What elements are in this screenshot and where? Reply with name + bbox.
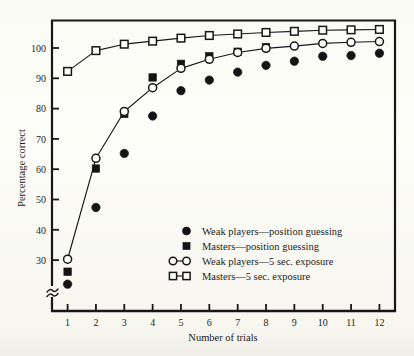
series-markers-0: [63, 49, 383, 288]
data-point-s3-x2: [92, 47, 100, 55]
data-point-s3-x10: [319, 26, 327, 34]
x-axis-title: Number of trials: [188, 332, 257, 343]
chart-legend: Weak players—position guessingMasters—po…: [169, 226, 343, 282]
legend-label-1: Masters—position guessing: [202, 241, 320, 252]
y-tick-label-30: 30: [36, 255, 46, 266]
data-point-s2-x2: [92, 154, 100, 162]
x-tick-label-2: 2: [93, 317, 98, 328]
legend-marker-3: [183, 272, 190, 279]
series-line-3: [68, 29, 380, 71]
data-point-s2-x4: [149, 84, 157, 92]
legend-label-3: Masters—5 sec. exposure: [202, 271, 311, 282]
data-point-s1-x1: [64, 268, 71, 275]
x-tick-label-11: 11: [346, 317, 356, 328]
y-tick-label-60: 60: [36, 164, 46, 175]
data-point-s3-x4: [149, 37, 157, 45]
data-point-s0-x10: [319, 52, 327, 60]
x-tick-label-10: 10: [318, 317, 328, 328]
data-point-s3-x9: [291, 28, 299, 36]
x-tick-label-5: 5: [178, 317, 183, 328]
data-point-s2-x8: [262, 44, 270, 52]
y-tick-label-100: 100: [31, 43, 46, 54]
data-point-s0-x2: [92, 203, 100, 211]
y-tick-label-80: 80: [36, 103, 46, 114]
x-tick-label-12: 12: [374, 317, 384, 328]
x-tick-label-1: 1: [65, 317, 70, 328]
y-axis-ticks: 100 90 80 70 60 50 40 30: [31, 43, 59, 266]
legend-marker-left-2: [169, 257, 177, 265]
chart-canvas: 100 90 80 70 60 50 40 30 123456789101112: [0, 0, 414, 356]
data-point-s3-x6: [206, 32, 214, 40]
y-tick-label-40: 40: [36, 225, 46, 236]
data-point-s2-x12: [375, 38, 383, 46]
data-point-s3-x8: [262, 29, 270, 37]
legend-marker-1: [183, 242, 190, 249]
data-point-s2-x3: [120, 107, 128, 115]
y-tick-label-90: 90: [36, 73, 46, 84]
data-point-s2-x5: [177, 64, 185, 72]
figure-container: 100 90 80 70 60 50 40 30 123456789101112: [0, 0, 414, 356]
data-point-s0-x9: [290, 57, 298, 65]
data-point-s0-x12: [375, 49, 383, 57]
data-point-s0-x6: [205, 76, 213, 84]
legend-marker-2: [183, 257, 191, 265]
data-point-s0-x5: [177, 86, 185, 94]
y-tick-label-70: 70: [36, 134, 46, 145]
legend-label-0: Weak players—position guessing: [202, 226, 343, 237]
data-point-s2-x9: [290, 42, 298, 50]
data-point-s3-x12: [376, 26, 384, 34]
data-point-s3-x1: [64, 68, 72, 76]
data-point-s0-x4: [148, 112, 156, 120]
data-point-s0-x11: [347, 51, 355, 59]
data-point-s0-x7: [233, 68, 241, 76]
data-point-s0-x3: [120, 149, 128, 157]
data-point-s3-x3: [120, 40, 128, 48]
plot-frame: [51, 20, 396, 312]
x-tick-label-8: 8: [264, 317, 269, 328]
legend-label-2: Weak players—5 sec. exposure: [202, 256, 334, 267]
legend-marker-left-3: [169, 272, 176, 279]
axis-break-marker: [47, 289, 58, 297]
data-point-s2-x11: [347, 38, 355, 46]
y-tick-label-50: 50: [36, 194, 46, 205]
legend-marker-0: [183, 227, 191, 235]
data-point-s0-x1: [63, 280, 71, 288]
data-point-s2-x10: [319, 39, 327, 47]
data-point-s3-x11: [347, 26, 355, 34]
data-point-s1-x2: [92, 165, 99, 172]
x-tick-label-4: 4: [150, 317, 155, 328]
data-point-s2-x7: [234, 49, 242, 57]
x-tick-label-6: 6: [207, 317, 212, 328]
data-point-s2-x1: [64, 255, 72, 263]
data-point-s3-x5: [177, 34, 185, 42]
data-point-s3-x7: [234, 30, 242, 38]
x-tick-label-9: 9: [292, 317, 297, 328]
data-point-s1-x4: [149, 74, 156, 81]
series-markers-3: [64, 26, 383, 76]
data-point-s2-x6: [205, 55, 213, 63]
x-tick-label-7: 7: [235, 317, 240, 328]
y-axis-title: Percentage correct: [16, 129, 27, 207]
x-tick-label-3: 3: [122, 317, 127, 328]
x-axis-ticks: 123456789101112: [65, 304, 384, 328]
data-point-s0-x8: [262, 61, 270, 69]
